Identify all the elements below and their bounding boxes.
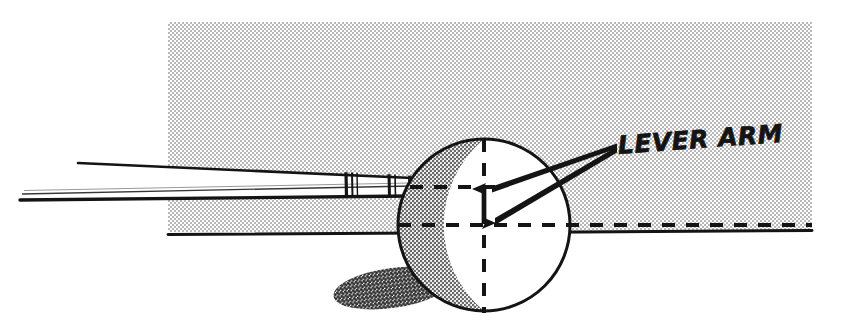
lever-arm-illustration: [0, 0, 846, 329]
figure-canvas: LEVER ARM: [0, 0, 846, 329]
